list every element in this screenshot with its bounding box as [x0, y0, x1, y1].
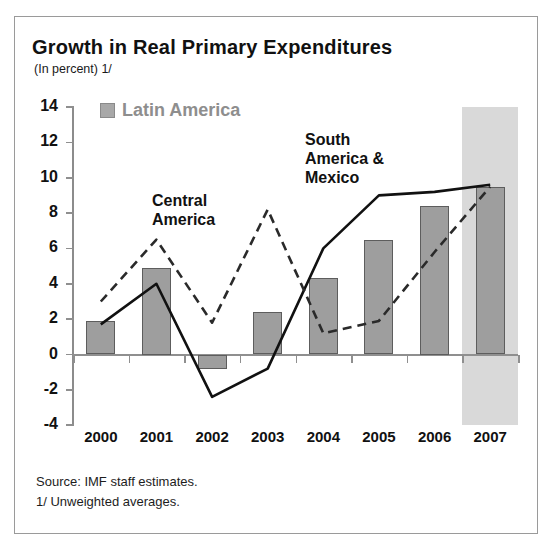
chart-figure: Growth in Real Primary Expenditures (In …	[0, 0, 556, 551]
annotation-central-america-line1: Central	[152, 191, 215, 210]
annotation-south-line1: South	[305, 130, 384, 149]
annotation-south-america-mexico: South America & Mexico	[305, 130, 384, 187]
annotation-south-line3: Mexico	[305, 168, 384, 187]
note-footnote-1: 1/ Unweighted averages.	[36, 492, 198, 512]
legend-swatch-latin-america	[100, 103, 115, 118]
line-series-layer	[0, 0, 556, 551]
legend-label-latin-america: Latin America	[122, 100, 240, 121]
note-source: Source: IMF staff estimates.	[36, 472, 198, 492]
annotation-south-line2: America &	[305, 149, 384, 168]
chart-legend: Latin America	[100, 100, 240, 121]
chart-notes: Source: IMF staff estimates. 1/ Unweight…	[36, 472, 198, 512]
annotation-central-america-line2: America	[152, 210, 215, 229]
annotation-central-america: Central America	[152, 191, 215, 229]
